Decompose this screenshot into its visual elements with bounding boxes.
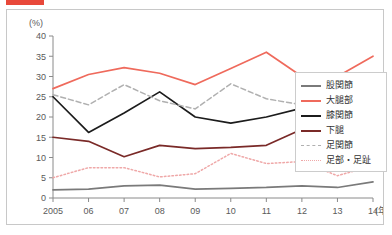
legend-swatch-icon — [301, 160, 321, 161]
x-tick-label: 10 — [226, 206, 236, 216]
legend-item-label: 下腿 — [326, 126, 344, 135]
x-tick-label: 08 — [155, 206, 165, 216]
legend-item[interactable]: 大腿部 — [301, 93, 382, 108]
legend-swatch-icon — [301, 115, 321, 117]
chart-frame: 05101520253035402005060708091011121314(年… — [6, 9, 384, 225]
x-tick-label: 13 — [332, 206, 342, 216]
y-tick-label: 0 — [41, 193, 46, 203]
y-tick-label: 30 — [36, 72, 46, 82]
x-axis-unit-label: (年) — [375, 205, 383, 216]
x-tick-label: 2005 — [43, 206, 63, 216]
x-tick-label: 07 — [119, 206, 129, 216]
legend-item-label: 足部・足趾 — [326, 156, 371, 165]
x-tick-label: 11 — [262, 206, 271, 216]
x-tick-label: 06 — [84, 206, 94, 216]
y-tick-label: 40 — [36, 31, 46, 41]
y-tick-label: 15 — [36, 133, 46, 143]
series-line-股関節 — [53, 182, 373, 190]
y-tick-label: 35 — [36, 52, 46, 62]
y-axis-unit-label: (%) — [29, 18, 43, 28]
legend-item[interactable]: 足関節 — [301, 138, 382, 153]
legend-swatch-icon — [301, 100, 321, 102]
legend-swatch-icon — [301, 130, 321, 132]
legend-item-label: 膝関節 — [326, 111, 353, 120]
legend-item-label: 股関節 — [326, 81, 353, 90]
legend-item[interactable]: 股関節 — [301, 78, 382, 93]
legend-item-label: 足関節 — [326, 141, 353, 150]
y-tick-label: 20 — [36, 112, 46, 122]
chart-legend: 股関節大腿部膝関節下腿足関節足部・足趾 — [295, 72, 387, 172]
legend-item[interactable]: 膝関節 — [301, 108, 382, 123]
y-tick-label: 5 — [41, 173, 46, 183]
legend-item[interactable]: 下腿 — [301, 123, 382, 138]
y-tick-label: 25 — [36, 92, 46, 102]
top-accent-marker — [6, 0, 44, 5]
legend-swatch-icon — [301, 145, 321, 146]
legend-item-label: 大腿部 — [326, 96, 353, 105]
legend-item[interactable]: 足部・足趾 — [301, 153, 382, 168]
x-tick-label: 09 — [190, 206, 200, 216]
legend-swatch-icon — [301, 85, 321, 87]
top-strip — [0, 0, 392, 9]
y-tick-label: 10 — [36, 153, 46, 163]
x-tick-label: 12 — [297, 206, 307, 216]
